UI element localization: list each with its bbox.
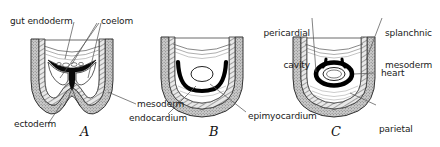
label-coelom: coelom <box>101 16 133 26</box>
panel-c-endocardial-lining <box>327 70 342 78</box>
label-pericardial-cavity-line2: cavity <box>258 60 310 71</box>
embryology-figure: gut endoderm coelom ectoderm mesoderm en… <box>0 0 440 147</box>
label-mesoderm: mesoderm <box>137 99 184 109</box>
label-heart: heart <box>381 68 405 78</box>
label-epimyocardium: epimyocardium <box>248 111 317 121</box>
panel-letter-c: C <box>331 124 341 139</box>
panel-b-endocardium <box>191 67 213 82</box>
label-ectoderm: ectoderm <box>14 119 56 129</box>
label-parietal-mesoderm: parietal mesoderm <box>379 103 426 147</box>
panel-a-drawing <box>31 39 113 114</box>
label-pericardial-cavity: pericardial cavity <box>258 7 310 91</box>
label-endocardium: endocardium <box>129 113 187 123</box>
label-splanchnic-mesoderm-line1: splanchnic <box>385 28 432 39</box>
label-gut-endoderm: gut endoderm <box>10 16 73 26</box>
panel-letter-b: B <box>209 124 219 139</box>
label-pericardial-cavity-line1: pericardial <box>258 28 310 39</box>
panel-letter-a: A <box>80 124 89 139</box>
label-parietal-mesoderm-line1: parietal <box>379 124 426 135</box>
label-splanchnic-mesoderm: splanchnic mesoderm <box>385 7 432 91</box>
